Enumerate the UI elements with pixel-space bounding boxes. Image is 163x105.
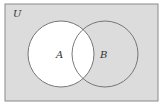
set-a-label: A — [55, 49, 63, 60]
venn-diagram: U A B — [0, 0, 163, 105]
set-b-label: B — [99, 49, 107, 60]
universe-label: U — [13, 8, 22, 19]
